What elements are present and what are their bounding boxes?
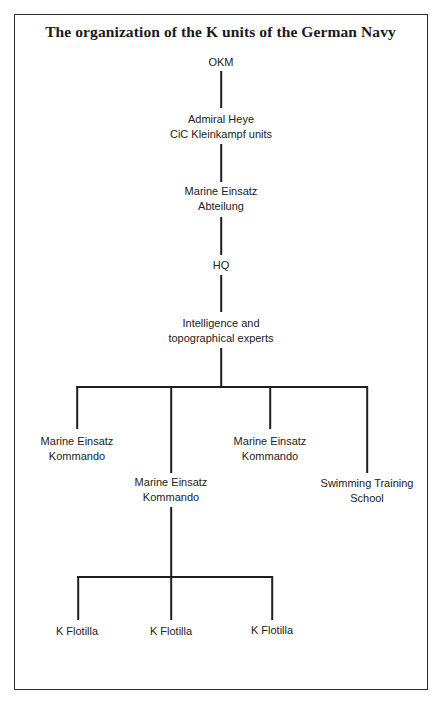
connector-bar-kf3	[271, 576, 273, 620]
node-mek1-line-1: Marine Einsatz	[41, 434, 114, 449]
node-k-flotilla-2: K Flotilla	[150, 624, 192, 639]
node-swim-line-1: Swimming Training	[321, 476, 414, 491]
node-intel-line-1: Intelligence and	[168, 316, 273, 331]
node-intelligence: Intelligence and topographical experts	[168, 316, 273, 346]
node-marine-einsatz-abteilung: Marine Einsatz Abteilung	[185, 184, 258, 214]
node-mek3-line-1: Marine Einsatz	[234, 434, 307, 449]
connector-intel-bar	[220, 348, 222, 387]
node-kf1-label: K Flotilla	[56, 624, 98, 639]
node-mek3-line-2: Kommando	[234, 449, 307, 464]
node-hq-label: HQ	[213, 258, 230, 273]
node-mek2-line-1: Marine Einsatz	[135, 475, 208, 490]
branch-bar-upper	[76, 386, 368, 388]
node-mek1-line-2: Kommando	[41, 449, 114, 464]
node-admiral-heye: Admiral Heye CiC Kleinkampf units	[170, 112, 272, 142]
connector-bar-mek1	[76, 386, 78, 429]
node-hq: HQ	[213, 258, 230, 273]
connector-okm-admiral	[220, 71, 222, 108]
connector-bar-swim	[366, 386, 368, 473]
node-kf3-label: K Flotilla	[251, 623, 293, 638]
connector-admiral-mea	[220, 144, 222, 182]
node-mek-3: Marine Einsatz Kommando	[234, 434, 307, 464]
connector-mek2-bar	[170, 507, 172, 577]
node-okm-label: OKM	[208, 55, 233, 70]
connector-bar-kf2	[170, 576, 172, 620]
node-admiral-line-2: CiC Kleinkampf units	[170, 127, 272, 142]
node-mek-1: Marine Einsatz Kommando	[41, 434, 114, 464]
node-swimming-training-school: Swimming Training School	[321, 476, 414, 506]
node-admiral-line-1: Admiral Heye	[170, 112, 272, 127]
node-mea-line-2: Abteilung	[185, 199, 258, 214]
node-intel-line-2: topographical experts	[168, 331, 273, 346]
node-mek2-line-2: Kommando	[135, 490, 208, 505]
node-mek-2: Marine Einsatz Kommando	[135, 475, 208, 505]
node-mea-line-1: Marine Einsatz	[185, 184, 258, 199]
node-swim-line-2: School	[321, 491, 414, 506]
node-okm: OKM	[208, 55, 233, 70]
node-kf2-label: K Flotilla	[150, 624, 192, 639]
diagram-title: The organization of the K units of the G…	[0, 23, 441, 41]
connector-bar-mek3	[269, 386, 271, 429]
connector-hq-intel	[220, 275, 222, 312]
connector-bar-kf1	[77, 576, 79, 620]
node-k-flotilla-3: K Flotilla	[251, 623, 293, 638]
node-k-flotilla-1: K Flotilla	[56, 624, 98, 639]
branch-bar-lower	[77, 576, 273, 578]
connector-bar-mek2	[170, 386, 172, 473]
connector-mea-hq	[220, 217, 222, 255]
